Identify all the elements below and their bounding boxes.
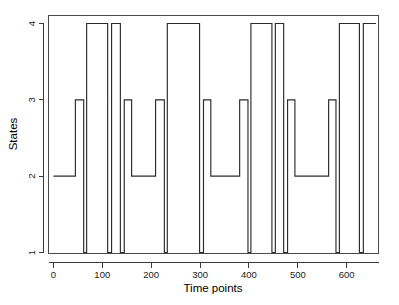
y-tick-label: 3 [26,97,37,102]
x-axis-tick-labels: 0100200300400500600 [51,269,355,280]
x-tick-label: 100 [94,269,110,280]
y-axis-tick-labels: 1234 [26,21,37,255]
x-axis-ticks [53,263,346,268]
step-chart-svg: 0100200300400500600 1234 Time points Sta… [0,0,399,305]
state-sequence-figure: 0100200300400500600 1234 Time points Sta… [0,0,399,305]
x-tick-label: 400 [241,269,257,280]
x-tick-label: 200 [143,269,159,280]
y-tick-label: 2 [26,174,37,179]
y-axis-title: States [7,117,19,150]
y-tick-label: 1 [26,250,37,255]
x-tick-label: 0 [51,269,56,280]
x-tick-label: 600 [339,269,355,280]
y-tick-label: 4 [26,21,37,26]
x-tick-label: 500 [290,269,306,280]
x-tick-label: 300 [192,269,208,280]
x-axis-title: Time points [183,282,242,294]
state-step-line [53,24,376,253]
y-axis-ticks [39,24,44,253]
